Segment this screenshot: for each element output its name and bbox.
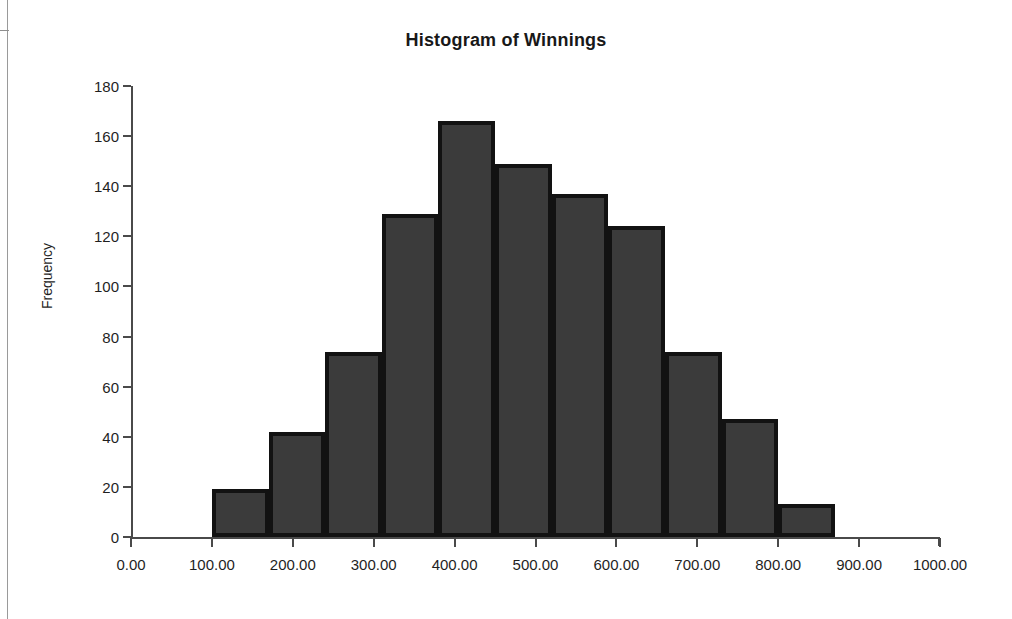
x-axis-tick-label: 700.00 xyxy=(674,556,720,573)
x-axis-tick xyxy=(858,538,860,547)
y-axis-tick-label: 180 xyxy=(94,78,119,95)
x-axis-tick xyxy=(696,538,698,547)
histogram-bar xyxy=(438,121,495,537)
y-axis-tick-label: 120 xyxy=(94,228,119,245)
y-axis-title: Frequency xyxy=(39,216,55,336)
y-axis-tick xyxy=(123,235,131,237)
histogram-bar xyxy=(608,226,665,537)
x-axis-tick-label: 200.00 xyxy=(270,556,316,573)
histogram-bar xyxy=(665,352,722,537)
x-axis-tick-label: 800.00 xyxy=(755,556,801,573)
x-axis-tick-label: 100.00 xyxy=(189,556,235,573)
y-axis-tick xyxy=(123,135,131,137)
x-axis-tick xyxy=(615,538,617,547)
y-axis-tick xyxy=(123,436,131,438)
y-axis-tick xyxy=(123,486,131,488)
y-axis-tick xyxy=(123,386,131,388)
histogram-bar xyxy=(552,194,609,537)
x-axis-tick-label: 900.00 xyxy=(836,556,882,573)
x-axis-tick-label: 500.00 xyxy=(513,556,559,573)
x-axis-tick-label: 300.00 xyxy=(351,556,397,573)
histogram-chart: Histogram of Winnings Frequency 02040608… xyxy=(0,0,1012,619)
y-axis-tick-label: 0 xyxy=(111,529,119,546)
y-axis-tick xyxy=(123,85,131,87)
x-axis-tick xyxy=(777,538,779,547)
x-axis-tick xyxy=(373,538,375,547)
x-axis-tick-label: 0.00 xyxy=(116,556,145,573)
histogram-bar xyxy=(495,164,552,537)
y-axis-tick xyxy=(123,185,131,187)
histogram-bar xyxy=(382,214,439,537)
x-axis-tick xyxy=(211,538,213,547)
histogram-bar xyxy=(212,489,269,537)
y-axis-tick-label: 40 xyxy=(102,428,119,445)
histogram-bar xyxy=(269,432,326,537)
histogram-bar xyxy=(778,504,835,537)
y-axis-tick-label: 140 xyxy=(94,178,119,195)
y-axis-line xyxy=(131,86,133,538)
x-axis-tick xyxy=(535,538,537,547)
y-axis-tick-label: 160 xyxy=(94,128,119,145)
histogram-bar xyxy=(722,419,779,537)
y-axis-tick-label: 20 xyxy=(102,478,119,495)
x-axis-tick-label: 400.00 xyxy=(432,556,478,573)
y-axis-tick-label: 100 xyxy=(94,278,119,295)
y-axis-tick-label: 80 xyxy=(102,328,119,345)
y-axis-tick-label: 60 xyxy=(102,378,119,395)
x-axis-tick xyxy=(454,538,456,547)
plot-area: 020406080100120140160180 0.00100.00200.0… xyxy=(131,86,940,537)
x-axis-tick-label: 600.00 xyxy=(593,556,639,573)
x-axis-tick xyxy=(939,538,941,547)
chart-title: Histogram of Winnings xyxy=(0,30,1012,51)
x-axis-tick-label: 1000.00 xyxy=(913,556,967,573)
y-axis-tick xyxy=(123,285,131,287)
x-axis-tick xyxy=(292,538,294,547)
x-axis-tick xyxy=(130,538,132,547)
histogram-bar xyxy=(325,352,382,537)
y-axis-tick xyxy=(123,336,131,338)
